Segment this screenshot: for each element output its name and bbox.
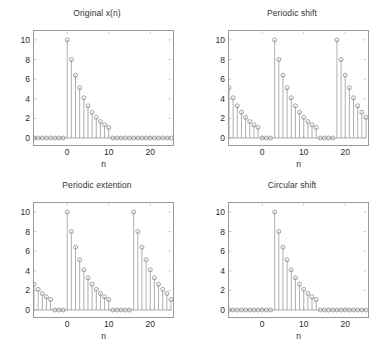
x-tick-label: 0	[65, 320, 70, 329]
y-tick-label: 2	[220, 286, 225, 295]
x-tick-label: 0	[65, 148, 70, 157]
x-axis-label-circular-shift: n	[228, 332, 369, 341]
y-tick-label: 0	[25, 306, 30, 315]
y-tick-label: 0	[220, 134, 225, 143]
y-tick-label: 8	[220, 227, 225, 236]
y-tick-label: 6	[25, 75, 30, 84]
y-tick-label: 10	[21, 35, 30, 44]
x-tick-label: 10	[299, 320, 308, 329]
axes-circular-shift	[228, 202, 369, 318]
x-axis-label-periodic-extention: n	[33, 332, 174, 341]
y-tick-label: 10	[216, 207, 225, 216]
y-tick-label: 2	[25, 114, 30, 123]
axes-original	[33, 30, 174, 146]
y-tick-label: 10	[21, 207, 30, 216]
axes-periodic-extention	[33, 202, 174, 318]
y-tick-label: 8	[25, 55, 30, 64]
y-tick-label: 8	[220, 55, 225, 64]
x-tick-label: 10	[299, 148, 308, 157]
matlab-figure: Original x(n) 0246810 01020 n Periodic s…	[0, 0, 389, 350]
y-tick-label: 6	[220, 75, 225, 84]
y-tick-label: 8	[25, 227, 30, 236]
stem-plot-original	[34, 31, 173, 145]
y-tick-label: 4	[220, 266, 225, 275]
y-tick-label: 2	[220, 114, 225, 123]
x-axis-label-original: n	[33, 160, 174, 169]
y-tick-label: 4	[25, 266, 30, 275]
y-tick-label: 10	[216, 35, 225, 44]
panel-original: Original x(n) 0246810 01020 n	[0, 8, 194, 175]
panel-title-circular-shift: Circular shift	[195, 180, 389, 190]
panel-periodic-extention: Periodic extention 0246810 01020 n	[0, 180, 194, 347]
x-tick-label: 20	[341, 320, 350, 329]
panel-title-periodic-shift: Periodic shift	[195, 8, 389, 18]
x-tick-label: 0	[260, 148, 265, 157]
panel-periodic-shift: Periodic shift 0246810 01020 n	[195, 8, 389, 175]
y-tick-label: 0	[25, 134, 30, 143]
y-tick-label: 4	[25, 94, 30, 103]
x-tick-label: 0	[260, 320, 265, 329]
y-tick-label: 4	[220, 94, 225, 103]
panel-circular-shift: Circular shift 0246810 01020 n	[195, 180, 389, 347]
x-axis-label-periodic-shift: n	[228, 160, 369, 169]
y-tick-labels-periodic-shift: 0246810	[203, 30, 225, 146]
stem-plot-periodic-extention	[34, 203, 173, 317]
panel-title-periodic-extention: Periodic extention	[0, 180, 194, 190]
x-tick-label: 20	[341, 148, 350, 157]
stem-plot-circular-shift	[229, 203, 368, 317]
y-tick-label: 0	[220, 306, 225, 315]
y-tick-label: 6	[25, 247, 30, 256]
y-tick-label: 2	[25, 286, 30, 295]
y-tick-labels-original: 0246810	[8, 30, 30, 146]
axes-periodic-shift	[228, 30, 369, 146]
y-tick-label: 6	[220, 247, 225, 256]
stem-plot-periodic-shift	[229, 31, 368, 145]
panel-title-original: Original x(n)	[0, 8, 194, 18]
x-tick-label: 20	[146, 148, 155, 157]
x-tick-label: 10	[104, 320, 113, 329]
y-tick-labels-circular-shift: 0246810	[203, 202, 225, 318]
x-tick-label: 10	[104, 148, 113, 157]
x-tick-label: 20	[146, 320, 155, 329]
y-tick-labels-periodic-extention: 0246810	[8, 202, 30, 318]
